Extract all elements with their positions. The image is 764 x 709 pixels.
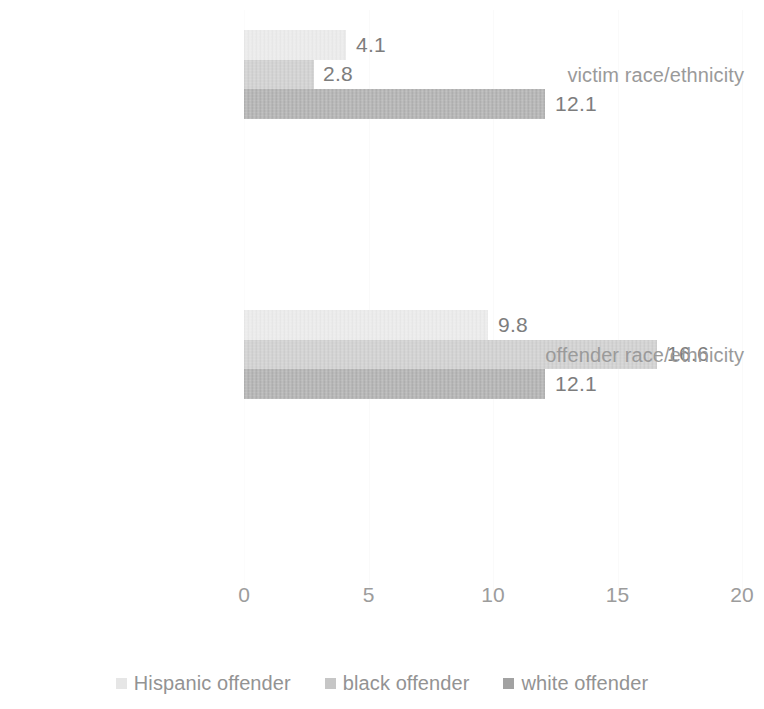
legend-swatch-icon [503, 678, 514, 689]
bar-value-offender-hispanic: 9.8 [498, 313, 528, 337]
bar-value-victim-hispanic: 4.1 [356, 33, 386, 57]
gridline-20 [742, 10, 743, 595]
table-row: 12.1 [244, 369, 742, 399]
legend-item-hispanic-offender[interactable]: Hispanic offender [116, 672, 291, 695]
bar-chart: 4.1 2.8 12.1 9.8 16.6 12.1 [0, 0, 764, 709]
bar-value-victim-black: 2.8 [323, 62, 353, 86]
category-label-offender: offender race/ethnicity [545, 344, 744, 367]
x-axis-tick-10: 10 [481, 583, 504, 607]
legend-label: Hispanic offender [134, 672, 291, 695]
legend-label: black offender [343, 672, 470, 695]
table-row: 4.1 [244, 30, 742, 60]
bar-offender-white[interactable] [244, 369, 545, 399]
x-axis-tick-0: 0 [238, 583, 250, 607]
table-row: 9.8 [244, 310, 742, 340]
bar-offender-hispanic[interactable] [244, 310, 488, 340]
chart-legend: Hispanic offender black offender white o… [0, 672, 764, 695]
bar-value-victim-white: 12.1 [555, 92, 597, 116]
bar-victim-hispanic[interactable] [244, 30, 346, 60]
bar-value-offender-white: 12.1 [555, 372, 597, 396]
x-axis-tick-15: 15 [606, 583, 629, 607]
table-row: 12.1 [244, 89, 742, 119]
x-axis-tick-20: 20 [730, 583, 753, 607]
x-axis-tick-5: 5 [363, 583, 375, 607]
category-label-victim: victim race/ethnicity [567, 64, 744, 87]
bar-victim-white[interactable] [244, 89, 545, 119]
legend-item-black-offender[interactable]: black offender [325, 672, 470, 695]
legend-item-white-offender[interactable]: white offender [503, 672, 648, 695]
legend-swatch-icon [325, 678, 336, 689]
legend-label: white offender [521, 672, 648, 695]
bar-victim-black[interactable] [244, 60, 314, 90]
plot-area: 4.1 2.8 12.1 9.8 16.6 12.1 [244, 10, 742, 595]
legend-swatch-icon [116, 678, 127, 689]
